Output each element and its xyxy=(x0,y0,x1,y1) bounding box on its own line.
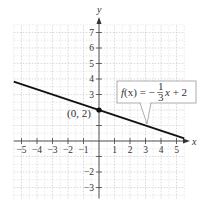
svg-text:−3: −3 xyxy=(47,145,57,155)
formula-denominator: 3 xyxy=(158,91,164,103)
svg-text:−3: −3 xyxy=(84,183,94,193)
y-axis-label: y xyxy=(96,4,102,15)
svg-text:3: 3 xyxy=(89,90,94,100)
point-label: (0, 2) xyxy=(67,107,91,120)
function-graph: −5−4−3−2−112345−3−234567 x y (0, 2) f(x)… xyxy=(0,0,208,214)
formula-equals: = − xyxy=(137,86,155,98)
svg-text:−5: −5 xyxy=(16,145,26,155)
svg-text:2: 2 xyxy=(128,145,133,155)
svg-text:3: 3 xyxy=(143,145,148,155)
formula-callout: f(x) = − 1 3 x + 2 xyxy=(117,80,196,124)
svg-text:−4: −4 xyxy=(32,145,42,155)
svg-text:1: 1 xyxy=(112,145,117,155)
formula-arg: (x) xyxy=(124,86,137,99)
x-axis-label: x xyxy=(191,136,197,147)
svg-text:−2: −2 xyxy=(84,167,94,177)
svg-text:5: 5 xyxy=(89,59,94,69)
svg-text:6: 6 xyxy=(89,43,94,53)
svg-text:x + 2: x + 2 xyxy=(164,86,187,98)
axes xyxy=(14,17,190,198)
svg-text:−2: −2 xyxy=(63,145,73,155)
svg-text:f(x) = −: f(x) = − xyxy=(121,86,155,99)
svg-text:−1: −1 xyxy=(78,145,88,155)
formula-tail: + 2 xyxy=(170,86,187,98)
svg-text:5: 5 xyxy=(174,145,179,155)
svg-text:4: 4 xyxy=(89,74,94,84)
svg-text:4: 4 xyxy=(159,145,164,155)
svg-text:7: 7 xyxy=(89,28,94,38)
